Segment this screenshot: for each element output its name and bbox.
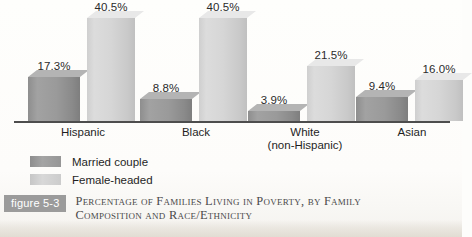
- bar-group-black: 8.8% 40.5%: [140, 6, 240, 121]
- x-axis-label-hispanic: Hispanic: [61, 126, 105, 139]
- bar-value-label: 9.4%: [369, 80, 396, 92]
- figure-caption-text: Percentage of Families Living in Poverty…: [75, 195, 427, 222]
- bar-black-married-couple: 8.8%: [140, 99, 192, 121]
- bar-value-label: 21.5%: [314, 49, 347, 61]
- bar-group-asian: 9.4% 16.0%: [356, 6, 456, 121]
- bar-front-face: [248, 111, 300, 121]
- bar-front-face: [356, 97, 408, 121]
- legend-item-label: Female-headed: [72, 174, 153, 186]
- bar-asian-married-couple: 9.4%: [356, 97, 408, 121]
- bar-chart-plot: 17.3% 40.5% 8.8% 40.5%: [0, 0, 462, 128]
- bar-front-face: [28, 77, 80, 121]
- bar-value-label: 40.5%: [94, 1, 127, 13]
- bar-value-label: 16.0%: [422, 63, 455, 75]
- bar-white-married-couple: 3.9%: [248, 111, 300, 121]
- bar-group-white-non-hispanic: 3.9% 21.5%: [248, 6, 348, 121]
- legend-item-female-headed: Female-headed: [30, 172, 153, 187]
- bar-hispanic-married-couple: 17.3%: [28, 77, 80, 121]
- x-axis-label-line: White: [268, 126, 343, 139]
- legend-item-label: Married couple: [72, 156, 148, 168]
- x-axis-label-line: Asian: [398, 126, 427, 139]
- page-scan-artifact: [0, 220, 462, 237]
- bar-group-hispanic: 17.3% 40.5%: [28, 6, 128, 121]
- bar-asian-female-headed: 16.0%: [415, 80, 463, 121]
- bar-front-face: [199, 18, 247, 121]
- x-axis-label-line: Hispanic: [61, 126, 105, 139]
- bar-value-label: 40.5%: [206, 1, 239, 13]
- bar-white-female-headed: 21.5%: [307, 66, 355, 121]
- legend-swatch-icon: [30, 174, 61, 185]
- bar-black-female-headed: 40.5%: [199, 18, 247, 121]
- figure-number-badge: figure 5-3: [4, 195, 66, 212]
- x-axis-label-line: (non-Hispanic): [268, 139, 343, 152]
- legend-item-married-couple: Married couple: [30, 154, 153, 169]
- bar-front-face: [415, 80, 463, 121]
- x-axis-baseline: [14, 121, 450, 123]
- bar-front-face: [87, 18, 135, 121]
- bar-value-label: 3.9%: [261, 94, 288, 106]
- figure-caption: figure 5-3 Percentage of Families Living…: [0, 195, 462, 222]
- legend-swatch-icon: [30, 156, 61, 167]
- bar-value-label: 8.8%: [153, 82, 180, 94]
- x-axis-label-asian: Asian: [398, 126, 427, 139]
- x-axis-label-white-non-hispanic: White (non-Hispanic): [268, 126, 343, 152]
- bar-hispanic-female-headed: 40.5%: [87, 18, 135, 121]
- bar-value-label: 17.3%: [37, 60, 70, 72]
- bar-front-face: [307, 66, 355, 121]
- x-axis-label-line: Black: [182, 126, 210, 139]
- x-axis-label-black: Black: [182, 126, 210, 139]
- chart-legend: Married couple Female-headed: [30, 154, 153, 190]
- bar-front-face: [140, 99, 192, 121]
